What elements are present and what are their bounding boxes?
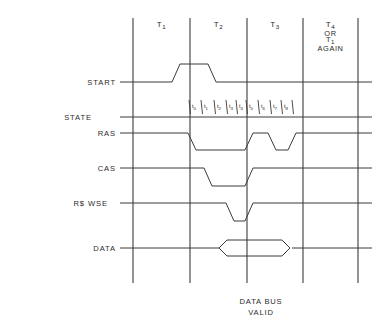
phase-header-t3-base: T	[270, 20, 276, 29]
state-tick-label-t6: t6	[261, 103, 265, 110]
phase-header-t3-sub: 3	[276, 23, 280, 30]
phase-header-t4-sub: 4	[331, 23, 335, 30]
state-tick-label-t1: t1	[204, 103, 208, 110]
state-tick-label-t8-sub: 8	[286, 106, 288, 111]
signal-label-start: START	[16, 78, 116, 87]
state-tick-label-t6-sub: 6	[263, 106, 265, 111]
waveform-rwse	[120, 203, 372, 221]
state-tick-label-t4-sub: 4	[241, 106, 243, 111]
phase-header-t4-again: AGAIN	[303, 44, 358, 53]
waveform-start	[120, 64, 372, 82]
phase-header-t3: T3	[247, 20, 303, 29]
state-tick-label-t0-sub: 0	[194, 106, 196, 111]
phase-header-t2-sub: 2	[219, 23, 223, 30]
signal-label-state: STATE	[0, 113, 92, 122]
phase-header-t1-sub: 1	[162, 23, 166, 30]
state-tick-label-t3: t3	[229, 103, 233, 110]
state-tick-label-t5-sub: 5	[251, 106, 253, 111]
phase-header-t2: T2	[190, 20, 247, 29]
phase-header-t4: T4 OR T1 AGAIN	[303, 20, 358, 53]
phase-header-t4-again-tag: T1	[303, 35, 358, 44]
waveform-cas	[120, 168, 372, 186]
state-tick-label-t5: t5	[249, 103, 253, 110]
phase-header-t1: T1	[133, 20, 190, 29]
timing-diagram-figure: T1 T2 T3 T4 OR T1 AGAIN START STATE RAS …	[0, 0, 392, 335]
waveform-ras	[120, 133, 372, 150]
state-tick-label-t8: t8	[284, 103, 288, 110]
state-tick-label-t7: t7	[273, 103, 277, 110]
signal-label-rwse: R$ WSE	[8, 199, 108, 208]
state-tick-label-t3-sub: 3	[231, 106, 233, 111]
state-tick-label-t0: t0	[192, 103, 196, 110]
caption-line-1: DATA BUS	[240, 297, 283, 306]
signal-label-ras: RAS	[16, 129, 116, 138]
caption-line-2: VALID	[248, 308, 273, 317]
state-tick-label-t4: t4	[239, 103, 243, 110]
phase-header-t4-again-sub: 1	[331, 38, 335, 45]
state-tick-label-t2-sub: 2	[219, 106, 221, 111]
state-tick-label-t1-sub: 1	[206, 106, 208, 111]
waveform-state	[120, 100, 372, 117]
phase-gridlines	[133, 18, 358, 283]
signal-label-cas: CAS	[16, 164, 116, 173]
state-tick-label-t2: t2	[217, 103, 221, 110]
data-bus-valid-caption: DATA BUS VALID	[196, 296, 326, 318]
state-tick-label-t7-sub: 7	[275, 106, 277, 111]
waveform-data	[120, 240, 372, 256]
signal-label-data: DATA	[16, 244, 116, 253]
